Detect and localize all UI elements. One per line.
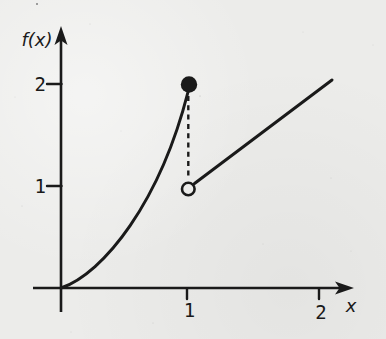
closed-endpoint-dot: [181, 76, 197, 92]
y-axis-label: f(x): [21, 29, 52, 50]
function-graph: f(x) x 2 1 1 2: [0, 0, 386, 339]
y-tick-label-1: 1: [35, 175, 46, 197]
x-tick-label-1: 1: [184, 299, 195, 321]
x-tick-label-2: 2: [315, 301, 326, 323]
x-axis-label: x: [345, 295, 357, 316]
open-endpoint-circle: [182, 183, 195, 196]
y-tick-label-2: 2: [35, 73, 46, 95]
left-branch-curve: [61, 92, 188, 288]
right-branch-line: [195, 80, 333, 184]
scanned-figure: f(x) x 2 1 1 2: [0, 0, 386, 339]
paper-noise-speckles: [0, 0, 2, 2]
